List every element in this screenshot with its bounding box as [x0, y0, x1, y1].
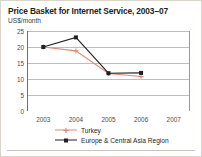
footer-divider	[7, 150, 195, 151]
y-tick-25: 25	[17, 28, 24, 35]
plot-area: 2520151050 20032004200520062007	[27, 31, 190, 111]
y-tick-20: 20	[17, 44, 24, 51]
x-tick-2005: 2005	[101, 116, 115, 123]
y-tick-10: 10	[17, 76, 24, 83]
series-canvas	[27, 31, 190, 111]
chart-figure: Price Basket for Internet Service, 2003–…	[0, 0, 202, 157]
legend-label-turkey: Turkey	[81, 127, 101, 134]
y-tick-15: 15	[17, 60, 24, 67]
legend-item-turkey[interactable]: Turkey	[55, 125, 169, 135]
chart-subtitle: US$/month	[8, 17, 41, 24]
x-tick-2006: 2006	[134, 116, 148, 123]
x-tick-2003: 2003	[36, 116, 50, 123]
legend-item-europe-central-asia[interactable]: Europe & Central Asia Region	[55, 135, 169, 145]
chart-title: Price Basket for Internet Service, 2003–…	[8, 6, 168, 16]
x-tick-2004: 2004	[69, 116, 83, 123]
legend-marker-plus-icon	[55, 126, 77, 135]
y-tick-5: 5	[20, 92, 24, 99]
y-tick-0: 0	[20, 108, 24, 115]
legend-marker-square-icon	[55, 136, 77, 145]
chart-legend: Turkey Europe & Central Asia Region	[55, 125, 169, 145]
legend-label-europe-central-asia: Europe & Central Asia Region	[81, 137, 169, 144]
x-tick-2007: 2007	[167, 116, 181, 123]
